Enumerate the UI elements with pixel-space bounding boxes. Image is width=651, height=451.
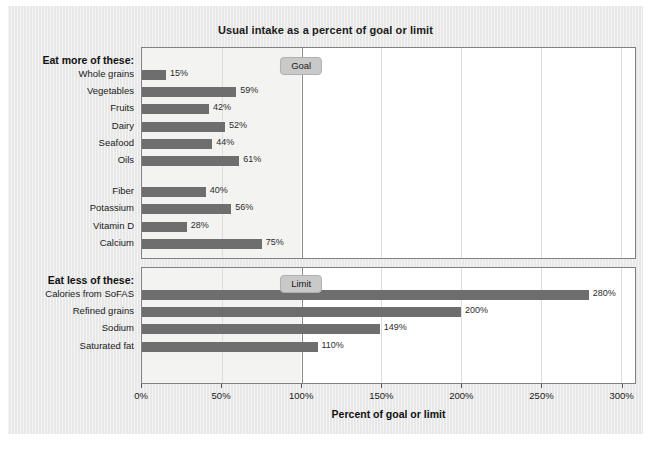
bar-row: 52%	[142, 122, 635, 132]
category-label: Seafood	[8, 137, 134, 148]
bar	[142, 307, 461, 317]
x-tick	[461, 384, 462, 388]
bar-row: 28%	[142, 222, 635, 232]
goal-badge: Goal	[280, 57, 322, 75]
bar-row: 59%	[142, 87, 635, 97]
bar-value-label: 40%	[210, 185, 228, 195]
x-tick-label: 300%	[609, 390, 633, 401]
category-label: Refined grains	[8, 305, 134, 316]
limit-badge: Limit	[280, 275, 322, 293]
bar	[142, 324, 380, 334]
category-label: Oils	[8, 154, 134, 165]
bar-row: 56%	[142, 204, 635, 214]
x-tick-label: 150%	[369, 390, 393, 401]
bar-row: 15%	[142, 70, 635, 80]
bar-row: 75%	[142, 239, 635, 249]
bar-row: 149%	[142, 324, 635, 334]
bar-value-label: 149%	[384, 322, 407, 332]
category-label: Calcium	[8, 237, 134, 248]
category-label: Dairy	[8, 120, 134, 131]
bar-value-label: 42%	[213, 102, 231, 112]
group-header: Eat less of these:	[8, 274, 134, 286]
bar-value-label: 280%	[593, 288, 616, 298]
x-tick	[141, 384, 142, 388]
bar	[142, 342, 318, 352]
bar-row: 61%	[142, 156, 635, 166]
chart-title: Usual intake as a percent of goal or lim…	[8, 24, 643, 36]
bar	[142, 87, 236, 97]
category-label: Vegetables	[8, 85, 134, 96]
x-tick	[541, 384, 542, 388]
category-label: Fruits	[8, 102, 134, 113]
bar-value-label: 200%	[465, 305, 488, 315]
bar-value-label: 75%	[266, 237, 284, 247]
bar	[142, 187, 206, 197]
x-tick-label: 200%	[449, 390, 473, 401]
bar-row: 110%	[142, 342, 635, 352]
bar-row: 200%	[142, 307, 635, 317]
bar	[142, 204, 231, 214]
category-label: Vitamin D	[8, 220, 134, 231]
x-tick	[622, 384, 623, 388]
x-tick	[301, 384, 302, 388]
bar-value-label: 110%	[322, 340, 344, 350]
bar	[142, 104, 209, 114]
bar-value-label: 56%	[235, 202, 253, 212]
x-tick-label: 250%	[529, 390, 553, 401]
category-label: Fiber	[8, 185, 134, 196]
bar-value-label: 52%	[229, 120, 247, 130]
bar-value-label: 44%	[216, 137, 234, 147]
bar	[142, 239, 262, 249]
x-tick	[221, 384, 222, 388]
x-tick-label: 0%	[134, 390, 148, 401]
category-label: Calories from SoFAS	[8, 288, 134, 299]
plot-panel-eat-more: 15%59%42%52%44%61%40%56%28%75%	[141, 47, 636, 259]
x-tick-label: 100%	[289, 390, 313, 401]
bar-value-label: 15%	[170, 68, 188, 78]
bar	[142, 70, 166, 80]
bar	[142, 222, 187, 232]
group-header: Eat more of these:	[8, 54, 134, 66]
bar	[142, 139, 212, 149]
category-label: Sodium	[8, 322, 134, 333]
plot-panel-eat-less: 280%200%149%110%	[141, 267, 636, 384]
bar-row: 42%	[142, 104, 635, 114]
bar-value-label: 28%	[191, 220, 209, 230]
x-tick-label: 50%	[212, 390, 231, 401]
bar-row: 280%	[142, 290, 635, 300]
chart-figure: Usual intake as a percent of goal or lim…	[8, 6, 643, 434]
x-tick	[381, 384, 382, 388]
category-label: Whole grains	[8, 68, 134, 79]
bar-value-label: 59%	[240, 85, 258, 95]
bar	[142, 290, 589, 300]
bar-row: 44%	[142, 139, 635, 149]
x-axis-title: Percent of goal or limit	[141, 408, 636, 420]
bar	[142, 156, 239, 166]
category-label: Potassium	[8, 202, 134, 213]
bar	[142, 122, 225, 132]
x-axis: 0%50%100%150%200%250%300%	[141, 384, 636, 385]
bar-row: 40%	[142, 187, 635, 197]
bar-value-label: 61%	[243, 154, 261, 164]
category-label: Saturated fat	[8, 340, 134, 351]
